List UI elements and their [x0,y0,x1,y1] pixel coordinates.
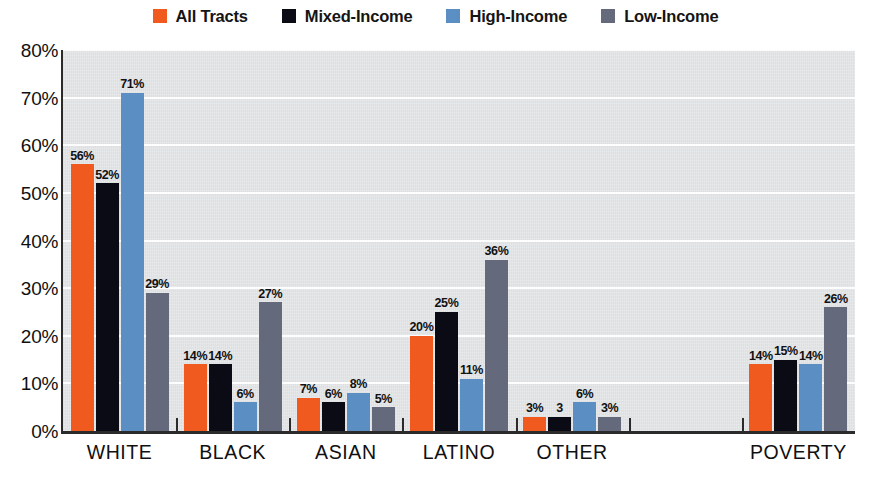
bar-group-other: 3%36%3% [516,50,629,431]
bar-slot: 3% [598,50,621,431]
bar-value-label: 6% [237,388,254,401]
bar-slot: 3% [523,50,546,431]
bar-value-label: 7% [300,383,317,396]
bar-chart: All Tracts Mixed-Income High-Income Low-… [0,0,871,496]
x-axis-label-poverty: POVERTY [742,443,855,473]
bar-slot: 71% [121,50,144,431]
legend-item-all-tracts: All Tracts [153,8,248,25]
legend-swatch-mixed-income [282,9,296,23]
bar[interactable]: 3% [523,417,546,431]
bar-group-latino: 20%25%11%36% [402,50,515,431]
x-axis-label-white: WHITE [63,443,176,473]
axis-separator-tick [176,418,178,431]
bar[interactable]: 3 [548,417,571,431]
bar[interactable]: 14% [184,364,207,431]
bar-slot: 15% [774,50,797,431]
bar-value-label: 26% [824,293,848,306]
bar[interactable]: 27% [259,302,282,431]
bar-value-label: 6% [325,388,342,401]
bar-value-label: 27% [258,288,282,301]
bar-value-label: 3% [601,402,618,415]
bar-slot: 14% [184,50,207,431]
bar[interactable]: 25% [435,312,458,431]
bar-slot: 6% [322,50,345,431]
bar[interactable]: 14% [209,364,232,431]
bar-slot: 36% [485,50,508,431]
legend-item-mixed-income: Mixed-Income [282,8,413,25]
y-tick-label: 70% [4,89,58,108]
bar-slot: 6% [234,50,257,431]
bar[interactable]: 7% [297,398,320,431]
bar[interactable]: 36% [485,260,508,431]
bar-slot: 5% [372,50,395,431]
bar-value-label: 5% [375,393,392,406]
bar-group-asian: 7%6%8%5% [289,50,402,431]
bar-group-poverty: 14%15%14%26% [742,50,855,431]
x-axis-label-black: BLACK [176,443,289,473]
bar-slot: 11% [460,50,483,431]
bar-value-label: 20% [410,321,434,334]
bar-value-label: 29% [145,278,169,291]
bar[interactable]: 11% [460,379,483,431]
axis-separator-tick [402,418,404,431]
legend-label-high-income: High-Income [469,8,567,25]
axis-separator-tick [289,418,291,431]
bar[interactable]: 20% [410,336,433,431]
legend-item-low-income: Low-Income [601,8,718,25]
bar-value-label: 52% [95,169,119,182]
bar-value-label: 6% [576,388,593,401]
bar-value-label: 14% [749,350,773,363]
y-tick-label: 10% [4,374,58,393]
bar-slot: 27% [259,50,282,431]
bar-value-label: 14% [799,350,823,363]
bar-value-label: 15% [774,345,798,358]
bar[interactable]: 14% [799,364,822,431]
x-axis-label-empty [629,443,742,473]
bar-slot: 7% [297,50,320,431]
x-axis-label-other: OTHER [516,443,629,473]
bar-slot: 52% [96,50,119,431]
legend-item-high-income: High-Income [446,8,567,25]
bar-value-label: 56% [70,150,94,163]
x-axis-label-latino: LATINO [402,443,515,473]
bar-slot: 56% [71,50,94,431]
bar-value-label: 3 [556,402,563,415]
x-axis-labels: WHITEBLACKASIANLATINOOTHERPOVERTY [63,443,855,473]
bar-groups: 56%52%71%29%14%14%6%27%7%6%8%5%20%25%11%… [63,50,855,431]
bar[interactable]: 52% [96,183,119,431]
bar-slot [686,50,709,431]
bar-slot: 8% [347,50,370,431]
bar[interactable]: 26% [824,307,847,431]
bar[interactable]: 56% [71,164,94,431]
legend-label-low-income: Low-Income [624,8,718,25]
bar[interactable]: 5% [372,407,395,431]
bar-slot: 14% [799,50,822,431]
axis-separator-tick [629,418,631,431]
bar[interactable]: 8% [347,393,370,431]
bar[interactable]: 3% [598,417,621,431]
bar[interactable]: 6% [322,402,345,431]
bar[interactable]: 29% [146,293,169,431]
legend-swatch-all-tracts [153,9,167,23]
y-tick-label: 40% [4,232,58,251]
axis-separator-tick [516,418,518,431]
bar[interactable]: 14% [749,364,772,431]
y-tick-label: 30% [4,279,58,298]
bar-slot: 25% [435,50,458,431]
bar-slot: 20% [410,50,433,431]
bar-slot: 26% [824,50,847,431]
y-axis-ticks: 0%10%20%30%40%50%60%70%80% [0,0,58,496]
y-axis-line [61,50,63,431]
bar-slot [711,50,734,431]
x-axis-label-asian: ASIAN [289,443,402,473]
bar-group-empty [629,50,742,431]
bar-slot: 6% [573,50,596,431]
bar[interactable]: 15% [774,360,797,431]
legend-swatch-low-income [601,9,615,23]
bar[interactable]: 6% [234,402,257,431]
bar-value-label: 11% [460,364,483,377]
bar[interactable]: 6% [573,402,596,431]
bar[interactable]: 71% [121,93,144,431]
bar-slot: 14% [749,50,772,431]
y-tick-label: 20% [4,327,58,346]
